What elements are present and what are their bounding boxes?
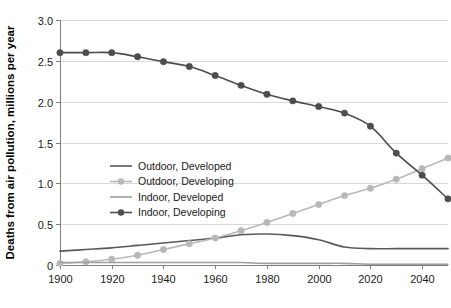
- x-axis-ticks: 19001920194019601980200020202040: [48, 265, 434, 285]
- data-point-marker: [57, 49, 63, 55]
- y-tick-label: 0: [47, 260, 53, 272]
- chart-container: 00.51.01.52.02.53.0190019201940196019802…: [0, 0, 451, 308]
- x-tick-label: 2000: [307, 273, 331, 285]
- legend-swatch-marker: [118, 209, 124, 215]
- legend-item-3[interactable]: Indoor, Developing: [110, 206, 226, 218]
- legend-item-1[interactable]: Outdoor, Developing: [110, 175, 234, 187]
- data-point-marker: [160, 58, 166, 64]
- legend-label: Indoor, Developed: [138, 191, 223, 203]
- legend-item-0[interactable]: Outdoor, Developed: [110, 160, 232, 172]
- legend-label: Indoor, Developing: [138, 206, 226, 218]
- y-tick-label: 2.5: [38, 56, 53, 68]
- data-point-marker: [393, 176, 399, 182]
- data-point-marker: [134, 54, 140, 60]
- legend-swatch-marker: [118, 178, 124, 184]
- legend: Outdoor, DevelopedOutdoor, DevelopingInd…: [110, 160, 234, 219]
- x-tick-label: 2040: [410, 273, 434, 285]
- data-point-marker: [290, 98, 296, 104]
- series-path: [60, 262, 448, 264]
- data-point-marker: [212, 235, 218, 241]
- data-point-marker: [238, 228, 244, 234]
- data-point-marker: [367, 123, 373, 129]
- series-path: [60, 52, 448, 198]
- line-chart: 00.51.01.52.02.53.0190019201940196019802…: [0, 0, 451, 308]
- data-point-marker: [57, 260, 63, 266]
- data-point-marker: [341, 192, 347, 198]
- data-point-marker: [83, 49, 89, 55]
- y-tick-label: 2.0: [38, 97, 53, 109]
- y-axis-title: Deaths from air pollution, millions per …: [4, 25, 16, 259]
- axes: [60, 20, 448, 266]
- x-tick-label: 2020: [358, 273, 382, 285]
- data-point-marker: [109, 49, 115, 55]
- data-point-marker: [445, 196, 451, 202]
- data-point-marker: [212, 72, 218, 78]
- data-point-marker: [134, 252, 140, 258]
- y-tick-label: 1.0: [38, 178, 53, 190]
- legend-label: Outdoor, Developing: [138, 175, 234, 187]
- data-point-marker: [264, 219, 270, 225]
- data-point-marker: [109, 256, 115, 262]
- data-point-marker: [290, 210, 296, 216]
- x-tick-label: 1940: [151, 273, 175, 285]
- x-tick-label: 1920: [100, 273, 124, 285]
- data-point-marker: [83, 259, 89, 265]
- y-tick-label: 0.5: [38, 219, 53, 231]
- data-point-marker: [393, 150, 399, 156]
- series-line-0: [60, 234, 448, 251]
- gridlines: [60, 21, 448, 266]
- y-tick-label: 3.0: [38, 15, 53, 27]
- series-path: [60, 234, 448, 251]
- data-point-marker: [419, 172, 425, 178]
- data-point-marker: [315, 103, 321, 109]
- x-tick-label: 1900: [48, 273, 72, 285]
- series-line-3: [57, 49, 451, 202]
- data-point-marker: [186, 241, 192, 247]
- data-point-marker: [445, 155, 451, 161]
- data-point-marker: [315, 201, 321, 207]
- x-tick-label: 1980: [255, 273, 279, 285]
- data-point-marker: [367, 185, 373, 191]
- data-point-marker: [238, 82, 244, 88]
- legend-item-2[interactable]: Indoor, Developed: [110, 191, 223, 203]
- series-line-2: [60, 262, 448, 264]
- data-point-marker: [186, 63, 192, 69]
- y-tick-label: 1.5: [38, 138, 53, 150]
- data-point-marker: [341, 110, 347, 116]
- legend-label: Outdoor, Developed: [138, 160, 232, 172]
- data-point-marker: [419, 165, 425, 171]
- x-tick-label: 1960: [203, 273, 227, 285]
- data-point-marker: [160, 246, 166, 252]
- data-point-marker: [264, 91, 270, 97]
- series-line-1: [57, 155, 451, 267]
